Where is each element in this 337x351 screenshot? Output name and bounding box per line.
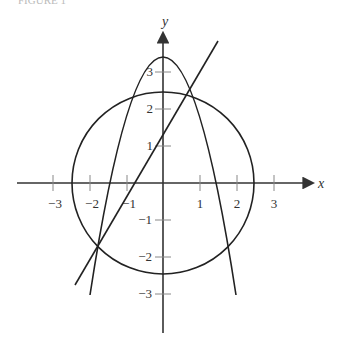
- svg-text:−1: −1: [122, 196, 136, 211]
- svg-text:1: 1: [147, 138, 154, 153]
- svg-text:−2: −2: [138, 249, 152, 264]
- svg-text:x: x: [317, 176, 325, 191]
- svg-text:1: 1: [197, 196, 204, 211]
- svg-text:−3: −3: [48, 196, 62, 211]
- svg-text:3: 3: [147, 64, 154, 79]
- svg-text:3: 3: [271, 196, 278, 211]
- svg-text:−2: −2: [85, 196, 99, 211]
- svg-text:2: 2: [234, 196, 241, 211]
- svg-text:y: y: [160, 14, 169, 29]
- svg-text:−3: −3: [138, 286, 152, 301]
- svg-text:−1: −1: [138, 212, 152, 227]
- graph: −3 −2 −1 1 2 3 3 2 1 −1 −2 −3 y x: [0, 0, 337, 351]
- svg-text:2: 2: [147, 101, 154, 116]
